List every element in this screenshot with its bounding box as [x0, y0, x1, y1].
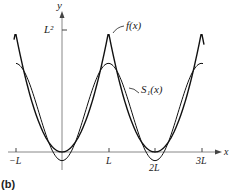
f-label-leader [113, 26, 124, 33]
x-tick-label-3L: 3L [196, 156, 207, 166]
f-curve-label: f(x) [126, 20, 141, 31]
y-axis-arrow-icon [60, 11, 65, 18]
s1-label-leader [129, 88, 139, 93]
y-tick-label-L2: L² [44, 24, 53, 35]
x-axis-label: x [224, 147, 228, 157]
s1-curve-label: S₁(x) [141, 84, 163, 95]
panel-label: (b) [1, 178, 15, 190]
x-tick-label-2L: 2L [149, 163, 160, 173]
x-axis-arrow-icon [215, 150, 222, 155]
x-tick-label-neg-L: −L [9, 156, 21, 166]
s1-curve [16, 63, 203, 160]
x-tick-label-L: L [106, 156, 112, 166]
chart-canvas [0, 0, 229, 193]
y-axis-label: y [57, 0, 62, 11]
f-curve [14, 35, 204, 152]
